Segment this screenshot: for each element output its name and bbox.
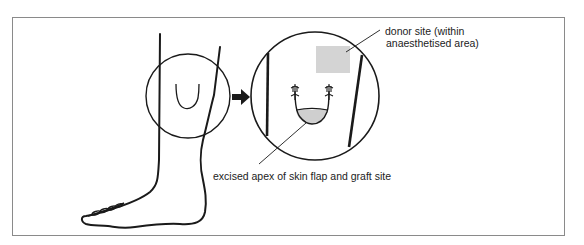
sutures-left: [291, 84, 299, 100]
donor-label-line1: donor site (within: [385, 25, 464, 37]
graft-site: [295, 91, 329, 124]
leg-diagram: [0, 0, 584, 245]
donor-site: [316, 46, 350, 73]
donor-site-label: donor site (within anaesthetised area): [385, 25, 479, 49]
donor-label-line2: anaesthetised area): [385, 37, 479, 49]
magnified-leg-edge-left: [267, 53, 268, 136]
excised-site-label: excised apex of skin flap and graft site: [213, 170, 391, 182]
magnified-leg-edge-right: [349, 55, 362, 147]
small-flap: [176, 84, 199, 109]
toe-details: [88, 203, 124, 216]
leg-outline: [82, 34, 220, 228]
right-arrow-icon: [232, 89, 250, 105]
sutures-right: [325, 84, 333, 100]
donor-leader-line: [346, 30, 380, 52]
large-circle: [251, 32, 379, 160]
